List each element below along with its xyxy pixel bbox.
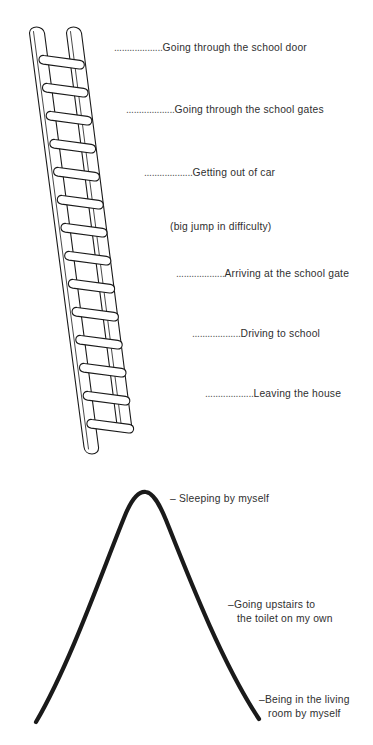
ladder-step-text: Getting out of car — [193, 167, 276, 178]
ladder-step-text: Going through the school door — [163, 42, 308, 53]
leader-dots: ................... — [205, 388, 254, 399]
ladder-step-label: ...................Getting out of car — [144, 166, 275, 180]
leader-dots: ................... — [126, 104, 175, 115]
curve-point-text-line2: the toilet on my own — [228, 612, 346, 626]
curve-point-label: – Sleeping by myself — [170, 492, 269, 506]
ladder-step-text: Leaving the house — [254, 388, 342, 399]
ladder-step-text: Driving to school — [241, 328, 321, 339]
curve-point-text: Being in the living — [265, 694, 350, 705]
bell-curve-path — [36, 492, 259, 722]
curve-point-text: Sleeping by myself — [179, 493, 269, 504]
dash-marker: – — [170, 493, 176, 504]
leader-dots: ................... — [144, 167, 193, 178]
ladder-step-label: ...................Going through the sch… — [126, 103, 324, 117]
ladder-jump-note: (big jump in difficulty) — [170, 220, 271, 234]
ladder-step-label: ...................Arriving at the schoo… — [176, 267, 349, 281]
leader-dots: ................... — [114, 42, 163, 53]
curve-point-text-line2: room by myself — [259, 707, 373, 721]
ladder-jump-note-text: (big jump in difficulty) — [170, 221, 271, 232]
ladder-step-label: ...................Going through the sch… — [114, 41, 307, 55]
ladder-step-label: ...................Driving to school — [192, 327, 320, 341]
ladder-illustration — [30, 27, 134, 454]
curve-point-label: –Going upstairs to the toilet on my own — [228, 598, 346, 625]
bell-curve-illustration — [36, 492, 259, 722]
curve-point-label: –Being in the living room by myself — [259, 693, 373, 720]
ladder-step-text: Arriving at the school gate — [225, 268, 350, 279]
leader-dots: ................... — [176, 268, 225, 279]
ladder-step-text: Going through the school gates — [175, 104, 324, 115]
worksheet-figure: ...................Going through the sch… — [0, 0, 373, 745]
curve-point-text: Going upstairs to — [234, 599, 315, 610]
ladder-step-label: ...................Leaving the house — [205, 387, 341, 401]
leader-dots: ................... — [192, 328, 241, 339]
